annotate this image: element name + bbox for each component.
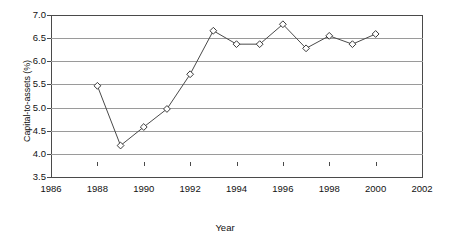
y-tick-label: 6.0 bbox=[2, 55, 46, 66]
y-tick-mark bbox=[47, 61, 51, 62]
plot-area bbox=[51, 15, 423, 178]
chart-container: Capital-to-assets (%) 3.54.04.55.05.56.0… bbox=[0, 0, 450, 246]
y-tick-label: 5.0 bbox=[2, 102, 46, 113]
x-tick-label: 1998 bbox=[309, 183, 349, 194]
y-tick-mark bbox=[47, 177, 51, 178]
y-tick-label: 7.0 bbox=[2, 9, 46, 20]
series-markers bbox=[94, 21, 379, 149]
x-tick-label: 1990 bbox=[124, 183, 164, 194]
y-tick-mark bbox=[47, 108, 51, 109]
x-tick-label: 2002 bbox=[402, 183, 442, 194]
x-tick-mark bbox=[237, 162, 238, 166]
y-tick-label: 5.5 bbox=[2, 78, 46, 89]
data-point-marker bbox=[94, 82, 101, 89]
x-tick-label: 1988 bbox=[77, 183, 117, 194]
data-point-marker bbox=[187, 71, 194, 78]
y-tick-label: 4.5 bbox=[2, 125, 46, 136]
x-tick-label: 1996 bbox=[263, 183, 303, 194]
y-tick-mark bbox=[47, 15, 51, 16]
x-tick-label: 1986 bbox=[31, 183, 71, 194]
x-tick-mark bbox=[376, 162, 377, 166]
y-tick-mark bbox=[47, 84, 51, 85]
y-tick-label: 3.5 bbox=[2, 171, 46, 182]
x-tick-label: 1994 bbox=[217, 183, 257, 194]
x-tick-mark bbox=[329, 162, 330, 166]
y-tick-label: 6.5 bbox=[2, 32, 46, 43]
data-point-marker bbox=[210, 27, 217, 34]
y-tick-mark bbox=[47, 38, 51, 39]
x-tick-mark bbox=[190, 162, 191, 166]
y-tick-mark bbox=[47, 154, 51, 155]
data-point-marker bbox=[372, 31, 379, 38]
data-series-line bbox=[51, 15, 423, 178]
x-tick-label: 1992 bbox=[170, 183, 210, 194]
x-tick-mark bbox=[283, 162, 284, 166]
data-point-marker bbox=[233, 41, 240, 48]
x-tick-mark bbox=[97, 162, 98, 166]
data-point-marker bbox=[349, 41, 356, 48]
x-tick-mark bbox=[144, 162, 145, 166]
y-tick-label: 4.0 bbox=[2, 148, 46, 159]
x-tick-mark bbox=[51, 162, 52, 166]
x-tick-mark bbox=[422, 162, 423, 166]
data-point-marker bbox=[326, 32, 333, 39]
x-tick-label: 2000 bbox=[356, 183, 396, 194]
y-tick-mark bbox=[47, 131, 51, 132]
x-axis-title: Year bbox=[0, 222, 450, 233]
